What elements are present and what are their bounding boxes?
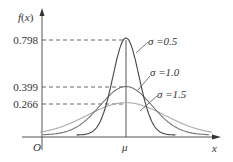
x-axis-label: x xyxy=(211,142,217,154)
normal-distribution-chart: f(x) 0.798 0.399 0.266 O μ x σ =0.5 σ =1… xyxy=(0,0,233,162)
x-axis-arrow-icon xyxy=(212,135,221,140)
leader-sigma-0.5 xyxy=(136,42,148,53)
mu-label: μ xyxy=(121,141,128,153)
label-sigma-1.5: σ =1.5 xyxy=(157,88,187,100)
label-sigma-0.5: σ =0.5 xyxy=(148,35,178,47)
y-axis-label: f(x) xyxy=(18,11,34,24)
y-axis-arrow-icon xyxy=(40,8,45,16)
y-tick-0266: 0.266 xyxy=(13,98,38,110)
y-tick-0798: 0.798 xyxy=(13,34,38,46)
label-sigma-1.0: σ =1.0 xyxy=(150,66,180,78)
y-tick-0399: 0.399 xyxy=(13,81,38,93)
origin-label: O xyxy=(33,141,41,153)
